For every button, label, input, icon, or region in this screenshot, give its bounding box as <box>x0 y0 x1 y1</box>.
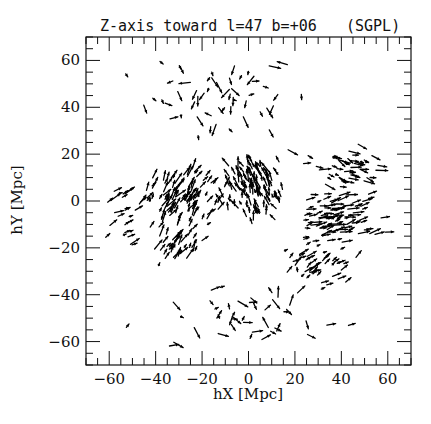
arrow-head <box>267 187 270 190</box>
arrow-head <box>241 192 244 195</box>
arrow-head <box>245 201 248 204</box>
arrow-head <box>256 80 259 83</box>
arrow-head <box>356 207 359 210</box>
y-tick-label: 0 <box>70 192 80 210</box>
arrow-head <box>328 167 331 170</box>
chart-title: Z-axis toward l=47 b=+06 (SGPL) <box>100 17 400 35</box>
arrow-head <box>343 223 346 226</box>
arrow-head <box>366 168 369 171</box>
arrow-head <box>262 200 265 203</box>
arrow-head <box>385 169 388 172</box>
arrow-head <box>343 185 346 188</box>
arrow-head <box>328 192 331 195</box>
arrow-head <box>305 218 308 221</box>
x-tick-label: −40 <box>140 370 172 388</box>
y-tick-label: 60 <box>61 51 80 69</box>
y-tick-label: 20 <box>61 145 80 163</box>
arrow-head <box>308 162 311 165</box>
arrow-head <box>249 321 252 324</box>
arrow-head <box>196 103 199 106</box>
arrow-head <box>265 205 268 208</box>
y-tick-label: 40 <box>61 98 80 116</box>
arrow-head <box>330 212 333 215</box>
arrow-head <box>370 227 373 230</box>
arrow-head <box>352 171 355 174</box>
y-tick-label: −40 <box>48 286 80 304</box>
y-tick-label: −60 <box>48 333 80 351</box>
y-tick-label: −20 <box>48 239 80 257</box>
x-tick-label: −60 <box>93 370 125 388</box>
arrow-head <box>341 202 344 205</box>
x-tick-label: 40 <box>332 370 351 388</box>
arrow-head <box>226 202 229 205</box>
arrow-head <box>301 274 304 277</box>
arrow-head <box>373 176 376 179</box>
arrow-head <box>316 239 319 242</box>
y-tick-labels: −60−40−200204060 <box>48 51 80 350</box>
velocity-arrows <box>106 61 394 348</box>
arrow-head <box>277 286 280 289</box>
x-tick-label: 60 <box>378 370 397 388</box>
arrow-head <box>354 193 357 196</box>
arrow-head <box>345 228 348 231</box>
velocity-field-chart: Z-axis toward l=47 b=+06 (SGPL) −60−40−2… <box>0 0 431 424</box>
y-axis-label: hY [Mpc] <box>8 165 26 234</box>
title-text: Z-axis toward l=47 b=+06 <box>100 17 317 35</box>
title-tag: (SGPL) <box>346 17 400 35</box>
arrow-head <box>252 211 255 214</box>
arrow-head <box>315 193 318 196</box>
arrow-head <box>319 220 322 223</box>
arrow-head <box>209 130 212 133</box>
arrow-head <box>228 195 231 198</box>
arrow-head <box>328 206 331 209</box>
arrow-head <box>179 82 182 85</box>
x-axis-label: hX [Mpc] <box>213 385 283 403</box>
arrow-head <box>307 226 310 229</box>
x-tick-label: 20 <box>285 370 304 388</box>
arrow-head <box>236 157 239 160</box>
arrow-head <box>233 200 236 203</box>
arrow-head <box>391 230 394 233</box>
arrow-head <box>358 213 361 216</box>
arrow-head <box>313 207 316 210</box>
arrow-head <box>300 97 303 100</box>
arrow-head <box>231 103 234 106</box>
arrow-head <box>255 175 258 178</box>
arrow-head <box>229 111 232 114</box>
